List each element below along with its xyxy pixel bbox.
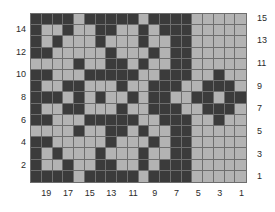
grid-cell[interactable] (74, 81, 85, 92)
grid-cell[interactable] (182, 81, 193, 92)
grid-cell[interactable] (31, 148, 42, 159)
grid-cell[interactable] (106, 81, 117, 92)
grid-cell[interactable] (42, 171, 53, 182)
grid-cell[interactable] (96, 36, 107, 47)
grid-cell[interactable] (85, 25, 96, 36)
grid-cell[interactable] (117, 25, 128, 36)
grid-cell[interactable] (182, 171, 193, 182)
grid-cell[interactable] (96, 126, 107, 137)
grid-cell[interactable] (182, 92, 193, 103)
grid-cell[interactable] (96, 115, 107, 126)
grid-cell[interactable] (53, 36, 64, 47)
grid-cell[interactable] (53, 81, 64, 92)
grid-cell[interactable] (171, 148, 182, 159)
grid-cell[interactable] (63, 59, 74, 70)
pattern-grid[interactable] (30, 13, 247, 183)
grid-cell[interactable] (63, 92, 74, 103)
grid-cell[interactable] (214, 137, 225, 148)
grid-cell[interactable] (31, 137, 42, 148)
grid-cell[interactable] (31, 25, 42, 36)
grid-cell[interactable] (63, 104, 74, 115)
grid-cell[interactable] (128, 59, 139, 70)
grid-cell[interactable] (42, 48, 53, 59)
grid-cell[interactable] (192, 115, 203, 126)
grid-cell[interactable] (149, 48, 160, 59)
grid-cell[interactable] (171, 104, 182, 115)
grid-cell[interactable] (53, 126, 64, 137)
grid-cell[interactable] (139, 92, 150, 103)
grid-cell[interactable] (139, 14, 150, 25)
grid-cell[interactable] (85, 14, 96, 25)
grid-cell[interactable] (42, 126, 53, 137)
grid-cell[interactable] (85, 126, 96, 137)
grid-cell[interactable] (85, 81, 96, 92)
grid-cell[interactable] (74, 36, 85, 47)
grid-cell[interactable] (31, 171, 42, 182)
grid-cell[interactable] (128, 92, 139, 103)
grid-cell[interactable] (203, 59, 214, 70)
grid-cell[interactable] (85, 70, 96, 81)
grid-cell[interactable] (96, 160, 107, 171)
grid-cell[interactable] (74, 115, 85, 126)
grid-cell[interactable] (85, 137, 96, 148)
grid-cell[interactable] (53, 59, 64, 70)
grid-cell[interactable] (85, 48, 96, 59)
grid-cell[interactable] (128, 115, 139, 126)
grid-cell[interactable] (235, 160, 246, 171)
grid-cell[interactable] (117, 104, 128, 115)
grid-cell[interactable] (31, 160, 42, 171)
grid-cell[interactable] (203, 137, 214, 148)
grid-cell[interactable] (160, 81, 171, 92)
grid-cell[interactable] (182, 148, 193, 159)
grid-cell[interactable] (171, 115, 182, 126)
grid-cell[interactable] (203, 70, 214, 81)
grid-cell[interactable] (117, 115, 128, 126)
grid-cell[interactable] (235, 126, 246, 137)
grid-cell[interactable] (31, 59, 42, 70)
grid-cell[interactable] (96, 48, 107, 59)
grid-cell[interactable] (106, 36, 117, 47)
grid-cell[interactable] (214, 115, 225, 126)
grid-cell[interactable] (139, 160, 150, 171)
grid-cell[interactable] (192, 92, 203, 103)
grid-cell[interactable] (214, 59, 225, 70)
grid-cell[interactable] (160, 48, 171, 59)
grid-cell[interactable] (171, 92, 182, 103)
grid-cell[interactable] (106, 137, 117, 148)
grid-cell[interactable] (182, 14, 193, 25)
grid-cell[interactable] (139, 48, 150, 59)
grid-cell[interactable] (235, 137, 246, 148)
grid-cell[interactable] (106, 25, 117, 36)
grid-cell[interactable] (203, 48, 214, 59)
grid-cell[interactable] (160, 14, 171, 25)
grid-cell[interactable] (192, 48, 203, 59)
grid-cell[interactable] (225, 148, 236, 159)
grid-cell[interactable] (106, 148, 117, 159)
grid-cell[interactable] (96, 137, 107, 148)
grid-cell[interactable] (235, 14, 246, 25)
grid-cell[interactable] (192, 59, 203, 70)
grid-cell[interactable] (182, 48, 193, 59)
grid-cell[interactable] (139, 171, 150, 182)
grid-cell[interactable] (63, 137, 74, 148)
grid-cell[interactable] (235, 171, 246, 182)
grid-cell[interactable] (74, 104, 85, 115)
grid-cell[interactable] (117, 92, 128, 103)
grid-cell[interactable] (117, 59, 128, 70)
grid-cell[interactable] (63, 14, 74, 25)
grid-cell[interactable] (139, 59, 150, 70)
grid-cell[interactable] (160, 25, 171, 36)
grid-cell[interactable] (149, 25, 160, 36)
grid-cell[interactable] (235, 104, 246, 115)
grid-cell[interactable] (182, 104, 193, 115)
grid-cell[interactable] (53, 148, 64, 159)
grid-cell[interactable] (53, 137, 64, 148)
grid-cell[interactable] (63, 148, 74, 159)
grid-cell[interactable] (214, 160, 225, 171)
grid-cell[interactable] (225, 171, 236, 182)
grid-cell[interactable] (139, 70, 150, 81)
grid-cell[interactable] (160, 160, 171, 171)
grid-cell[interactable] (96, 148, 107, 159)
grid-cell[interactable] (171, 70, 182, 81)
grid-cell[interactable] (235, 148, 246, 159)
